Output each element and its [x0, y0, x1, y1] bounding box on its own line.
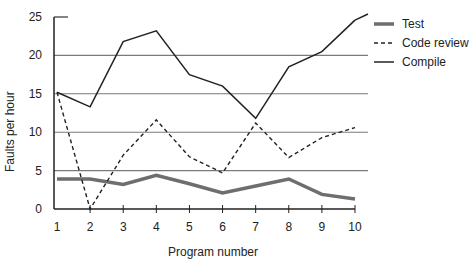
test-line-swatch-icon	[372, 19, 396, 29]
x-tick-label: 7	[252, 220, 259, 234]
x-tick-labels: 12345678910	[54, 220, 362, 234]
legend: Test Code review Compile	[372, 14, 469, 71]
compile-line-extension	[355, 14, 368, 20]
x-tick-label: 6	[219, 220, 226, 234]
y-axis-label: Faults per hour	[3, 91, 17, 172]
gridlines	[54, 55, 368, 170]
compile-line-swatch-icon	[372, 57, 396, 67]
y-tick-label: 10	[29, 125, 43, 139]
code-review-line-swatch-icon	[372, 38, 396, 48]
series-line-compile	[57, 20, 355, 118]
legend-label-test: Test	[402, 17, 424, 31]
legend-item-test: Test	[372, 14, 469, 33]
legend-label-code-review: Code review	[402, 36, 469, 50]
x-tick-label: 4	[153, 220, 160, 234]
x-tick-label: 3	[120, 220, 127, 234]
x-axis-label: Program number	[168, 245, 258, 259]
series-line-code-review	[57, 92, 355, 209]
legend-item-code-review: Code review	[372, 33, 469, 52]
series-line-test	[57, 175, 355, 199]
data-series	[57, 14, 368, 209]
x-tick-label: 5	[186, 220, 193, 234]
x-tick-label: 9	[319, 220, 326, 234]
legend-item-compile: Compile	[372, 52, 469, 71]
x-tick-label: 2	[87, 220, 94, 234]
legend-label-compile: Compile	[402, 55, 446, 69]
y-tick-label: 15	[29, 87, 43, 101]
x-tick-label: 8	[285, 220, 292, 234]
y-tick-labels: 0510152025	[29, 10, 43, 216]
y-tick-label: 20	[29, 48, 43, 62]
y-tick-label: 25	[29, 10, 43, 24]
x-tick-label: 1	[54, 220, 61, 234]
y-tick-label: 0	[35, 202, 42, 216]
x-tick-label: 10	[348, 220, 362, 234]
axes	[54, 17, 355, 213]
y-tick-label: 5	[35, 164, 42, 178]
